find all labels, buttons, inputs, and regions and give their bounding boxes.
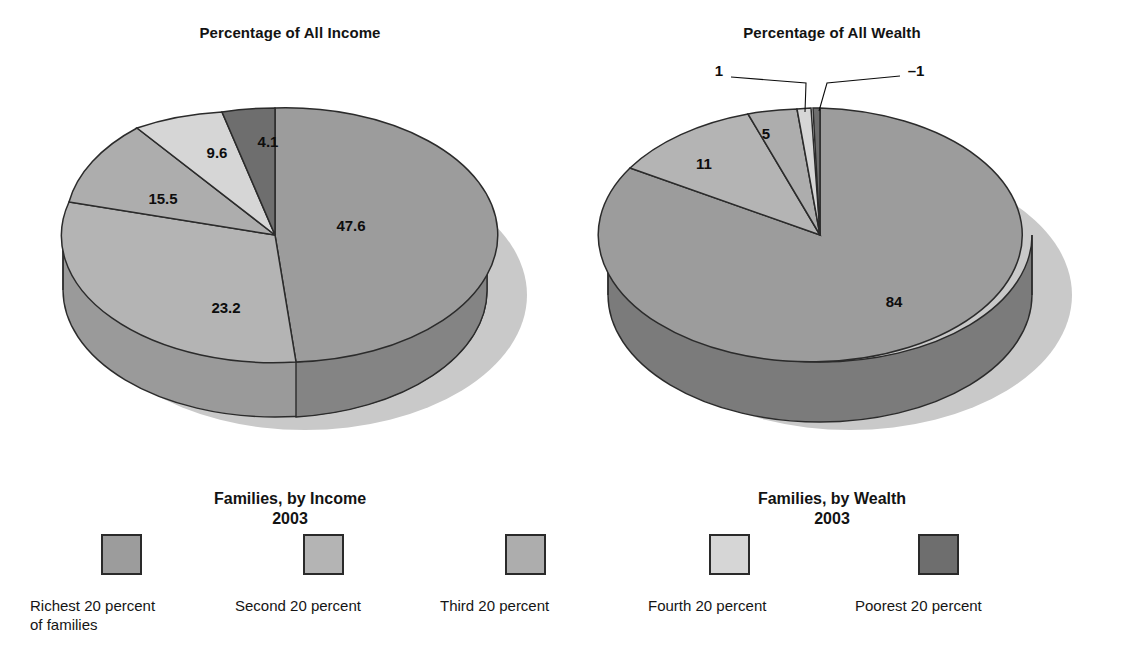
chart-title-income: Percentage of All Income xyxy=(130,24,450,41)
sub-title-wealth-year: 2003 xyxy=(672,509,992,529)
leader-line-poorest xyxy=(819,76,900,111)
legend-swatch-fourth xyxy=(709,534,750,575)
chart-title-wealth: Percentage of All Wealth xyxy=(672,24,992,41)
legend-swatch-richest xyxy=(101,534,142,575)
pie-label-second: 23.2 xyxy=(211,299,240,316)
pie-label-third: 5 xyxy=(762,125,770,142)
legend-label-fourth: Fourth 20 percent xyxy=(648,596,848,615)
legend-label-second: Second 20 percent xyxy=(235,596,435,615)
pie-chart-wealth: 84 11 5 1 –1 xyxy=(600,55,1070,455)
pie-label-third: 15.5 xyxy=(148,190,177,207)
legend-swatch-third xyxy=(505,534,546,575)
sub-title-wealth-text: Families, by Wealth xyxy=(758,490,906,507)
pie-chart-income: 47.6 23.2 15.5 9.6 4.1 xyxy=(55,55,525,455)
legend-label-richest: Richest 20 percent of families xyxy=(30,596,230,634)
legend-item-richest: Richest 20 percent of families xyxy=(30,534,230,634)
legend-item-third: Third 20 percent xyxy=(440,534,640,615)
legend-item-second: Second 20 percent xyxy=(235,534,435,615)
pie-callout-poorest: –1 xyxy=(908,62,925,79)
legend: Richest 20 percent of families Second 20… xyxy=(0,534,1122,663)
sub-title-income-text: Families, by Income xyxy=(214,490,366,507)
sub-title-income: Families, by Income 2003 xyxy=(130,489,450,529)
pie-callout-fourth: 1 xyxy=(715,62,723,79)
legend-swatch-second xyxy=(303,534,344,575)
legend-item-poorest: Poorest 20 percent xyxy=(855,534,1055,615)
legend-item-fourth: Fourth 20 percent xyxy=(648,534,848,615)
pie-label-poorest: 4.1 xyxy=(258,133,279,150)
sub-title-wealth: Families, by Wealth 2003 xyxy=(672,489,992,529)
pie-label-richest: 47.6 xyxy=(336,217,365,234)
pie-label-richest: 84 xyxy=(886,293,903,310)
legend-swatch-poorest xyxy=(918,534,959,575)
pie-label-fourth: 9.6 xyxy=(207,144,228,161)
legend-label-third: Third 20 percent xyxy=(440,596,640,615)
leader-line-fourth xyxy=(731,77,806,112)
legend-label-poorest: Poorest 20 percent xyxy=(855,596,1055,615)
figure-canvas: Percentage of All Income Percentage of A… xyxy=(0,0,1122,663)
pie-label-second: 11 xyxy=(696,155,712,172)
sub-title-income-year: 2003 xyxy=(130,509,450,529)
